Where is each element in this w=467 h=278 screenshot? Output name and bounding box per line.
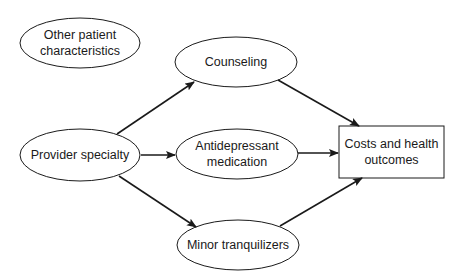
label-line: Other patient bbox=[44, 27, 116, 43]
label-text: Counseling bbox=[205, 54, 268, 70]
edge-provider-to-counseling bbox=[117, 82, 194, 134]
label-minor-tranquilizers: Minor tranquilizers bbox=[177, 220, 299, 270]
label-line: Antidepressant bbox=[195, 138, 278, 154]
label-text: Minor tranquilizers bbox=[187, 237, 289, 253]
edge-tranquilizers-to-outcomes bbox=[280, 178, 362, 226]
label-text: Provider specialty bbox=[31, 147, 130, 163]
label-antidepressant-medication: Antidepressant medication bbox=[176, 129, 298, 179]
label-counseling: Counseling bbox=[175, 37, 297, 87]
label-provider-specialty: Provider specialty bbox=[20, 129, 140, 181]
label-line: Costs and health bbox=[345, 136, 439, 152]
label-line: medication bbox=[207, 154, 267, 170]
label-costs-health-outcomes: Costs and health outcomes bbox=[339, 126, 444, 178]
label-line: characteristics bbox=[40, 43, 120, 59]
label-other-patient-characteristics: Other patient characteristics bbox=[20, 18, 140, 68]
label-line: outcomes bbox=[364, 152, 418, 168]
